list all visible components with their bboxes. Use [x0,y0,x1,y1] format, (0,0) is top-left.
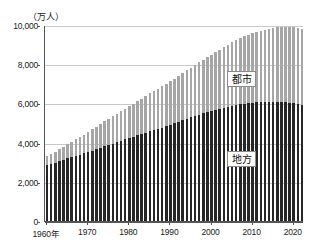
bar-segment-urban [206,57,209,112]
bar-segment-urban [177,76,180,122]
bar-segment-rural [210,111,213,221]
y-tick-label: 8,000 [18,60,38,70]
bar [112,116,115,221]
bar-segment-rural [136,135,139,221]
bar-segment-urban [120,111,123,141]
bar-segment-rural [194,116,197,221]
bar-segment-urban [165,84,168,127]
bar-segment-rural [91,151,94,221]
bar [235,40,238,221]
x-tick-label: 1990 [160,227,178,237]
bar-segment-rural [157,129,160,221]
bar [62,147,65,221]
bar-segment-urban [66,144,69,158]
bar-segment-rural [75,156,78,221]
bar-segment-rural [169,125,172,221]
bar-segment-urban [181,73,184,120]
bar [194,65,197,221]
bar-segment-urban [87,132,90,152]
bar-segment-rural [280,102,283,221]
bar [247,35,250,221]
bar-segment-urban [272,28,275,102]
bar [276,27,279,221]
bar-segment-rural [218,109,221,221]
bar-segment-urban [112,116,115,143]
bar-segment-rural [83,153,86,221]
bar-segment-rural [103,146,106,221]
bar-segment-rural [301,105,304,221]
bar [218,50,221,222]
bar [181,73,184,221]
bar-segment-urban [83,135,86,154]
bar-segment-urban [128,106,131,138]
x-tick-mark [46,222,47,225]
bar [124,109,127,221]
bar-segment-urban [223,47,226,108]
bar-segment-urban [62,147,65,160]
bar-segment-urban [149,93,152,131]
bar-segment-urban [91,129,94,150]
bar-segment-urban [46,156,49,165]
y-axis-tick-labels: 02,0004,0006,0008,00010,000 [0,26,40,222]
bar [83,135,86,221]
x-tick-label: 1980 [119,227,137,237]
bar-segment-rural [260,102,263,221]
bar-segment-rural [284,102,287,221]
bar-segment-rural [99,148,102,221]
bar [107,119,110,221]
bar-segment-rural [288,103,291,221]
y-tick-label: 10,000 [13,21,38,31]
bar [280,27,283,221]
bar-segment-urban [255,32,258,103]
bar-segment-urban [103,121,106,146]
bar-segment-rural [173,123,176,221]
bar-segment-rural [58,161,61,221]
bar-segment-urban [214,52,217,110]
bar-segment-urban [173,79,176,124]
bar-segment-rural [165,126,168,221]
bar [99,124,102,221]
bar [58,149,61,221]
bar-segment-urban [297,28,300,104]
bar-segment-rural [132,137,135,221]
bar-segment-urban [251,33,254,103]
bar-segment-urban [194,65,197,116]
bar-series-container [45,26,303,221]
bar-segment-rural [177,122,180,221]
bar-segment-urban [132,104,135,137]
x-tick-label: 2010 [243,227,261,237]
bar-segment-rural [297,104,300,221]
bar-segment-urban [124,109,127,140]
bar-segment-rural [268,102,271,221]
population-stacked-bar-chart: （万人） 02,0004,0006,0008,00010,000 都市 地方 1… [0,0,313,249]
bar-segment-rural [223,108,226,221]
bar [103,121,106,221]
bar-segment-urban [243,36,246,103]
bar [297,28,300,221]
bar [284,27,287,221]
y-tick-label: 6,000 [18,99,38,109]
bar-segment-urban [75,139,78,155]
bar-segment-urban [276,27,279,102]
bar-segment-urban [95,127,98,150]
bar [260,31,263,222]
bar-segment-rural [62,160,65,221]
bar [251,33,254,221]
bar [95,127,98,221]
bar-segment-urban [70,142,73,157]
bar-segment-rural [190,117,193,221]
x-tick-mark [169,222,170,225]
plot-area: 都市 地方 [44,26,303,222]
bar [239,38,242,221]
bar [231,42,234,221]
bar [198,62,201,221]
bar [214,52,217,221]
x-tick-label: 1970 [78,227,96,237]
y-tick-mark [37,65,40,66]
bar-segment-urban [50,154,53,164]
bar-segment-urban [264,30,267,103]
bar-segment-urban [292,27,295,103]
bar-segment-urban [190,68,193,118]
y-tick-mark [37,144,40,145]
bar-segment-rural [50,164,53,221]
